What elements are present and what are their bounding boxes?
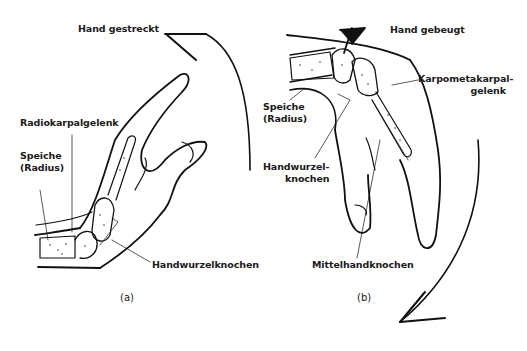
label-carpal-bones-b-line2: knochen <box>285 173 330 185</box>
state-label-flexed: Hand gebeugt <box>390 24 465 36</box>
label-cmc-joint-line2: gelenk <box>458 85 506 97</box>
caption-b: (b) <box>357 292 371 303</box>
label-radius-a-line2: (Radius) <box>20 162 64 174</box>
label-radiocarpal-joint: Radiokarpalgelenk <box>20 117 119 129</box>
label-metacarpals: Mittelhandknochen <box>312 259 414 271</box>
hand-anatomy-illustration <box>0 0 527 351</box>
label-carpal-bones-a: Handwurzelknochen <box>152 259 259 271</box>
label-cmc-joint-line1: Karpometakarpal- <box>418 73 513 85</box>
label-radius-b-line1: Speiche <box>263 101 304 113</box>
label-radius-b-line2: (Radius) <box>263 113 307 125</box>
caption-a: (a) <box>120 292 134 303</box>
label-carpal-bones-b-line1: Handwurzel- <box>263 161 329 173</box>
state-label-extended: Hand gestreckt <box>78 23 159 35</box>
panel-a-drawing <box>35 34 250 268</box>
label-radius-a-line1: Speiche <box>20 150 61 162</box>
